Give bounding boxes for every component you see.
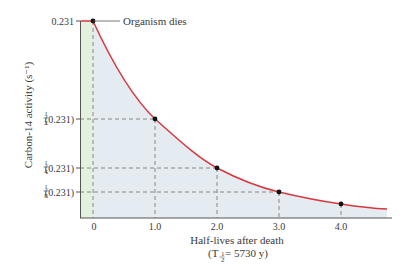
y-axis-label: Carbon-14 activity (s⁻¹): [22, 62, 35, 169]
x-tick-label: 4.0: [335, 221, 348, 232]
x-tick-label: 3.0: [273, 221, 286, 232]
data-point: [339, 202, 344, 207]
x-tick-label: 2.0: [211, 221, 224, 232]
y-tick-half: 1 2 (0.231): [44, 110, 75, 127]
svg-text:= 5730 y): = 5730 y): [225, 247, 268, 260]
y-tick-label: 0.231: [52, 16, 75, 27]
x-axis-sublabel: (T 1 2 = 5730 y): [208, 247, 268, 264]
svg-text:(0.231): (0.231): [45, 114, 74, 126]
svg-text:(T: (T: [208, 247, 219, 260]
svg-text:(0.231): (0.231): [45, 187, 74, 199]
data-point: [277, 190, 282, 195]
x-tick-label: 0: [92, 221, 97, 232]
x-axis-label: Half-lives after death: [190, 234, 284, 246]
decay-area-fill: [93, 21, 387, 218]
svg-text:(0.231): (0.231): [45, 163, 74, 175]
y-tick-quarter: 1 4 (0.231): [44, 159, 75, 176]
annotation-organism-dies: Organism dies: [123, 15, 187, 27]
y-tick-eighth: 1 8 (0.231): [44, 183, 75, 200]
data-point: [153, 117, 158, 122]
x-tick-label: 1.0: [149, 221, 162, 232]
before-death-region: [81, 21, 94, 218]
decay-chart: Organism dies 0.231 1 2 (0.231) 1 4 (0.2…: [0, 0, 407, 274]
data-point: [215, 166, 220, 171]
